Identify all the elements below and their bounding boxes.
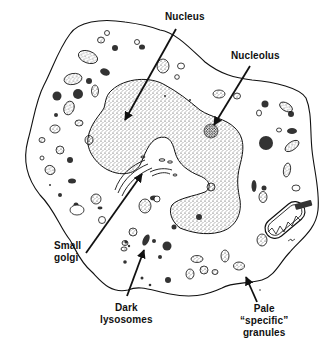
pale-granules-label-line-2: “specific” xyxy=(240,315,288,327)
pale-granules-label-line-3: granules xyxy=(240,327,288,339)
pale-granules-label-line-1: Pale xyxy=(240,303,288,315)
pale-specific-granules-label: Pale “specific” granules xyxy=(240,303,288,339)
dark-lysosomes-label-line-2: lysosomes xyxy=(100,314,153,326)
nucleus-label-line: Nucleus xyxy=(165,11,205,23)
nucleolus-label: Nucleolus xyxy=(231,50,280,62)
small-golgi-label-line-1: Small xyxy=(54,240,81,252)
nucleolus-label-line: Nucleolus xyxy=(231,50,280,62)
nucleus-label: Nucleus xyxy=(165,11,205,23)
dark-lysosomes-label-line-1: Dark xyxy=(100,302,153,314)
nucleolus-shape xyxy=(204,124,218,138)
dark-lysosomes-label: Dark lysosomes xyxy=(100,302,153,326)
small-golgi-label-line-2: golgi xyxy=(54,252,81,264)
small-golgi-label: Small golgi xyxy=(54,240,81,264)
